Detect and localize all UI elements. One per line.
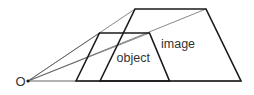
object-label: object (117, 51, 151, 65)
perspective-diagram: O object image (0, 0, 254, 95)
origin-point (26, 79, 29, 82)
image-label: image (161, 37, 195, 51)
origin-label: O (16, 74, 26, 89)
